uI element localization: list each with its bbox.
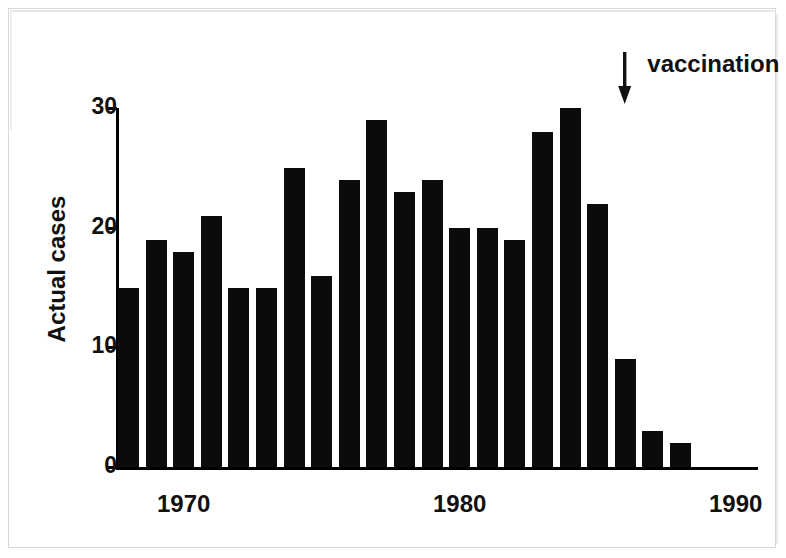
- bar: [670, 443, 691, 467]
- bar: [173, 252, 194, 467]
- bar: [587, 204, 608, 467]
- bar: [560, 108, 581, 467]
- bar: [477, 228, 498, 467]
- down-arrow-icon: [617, 52, 633, 104]
- bar: [422, 180, 443, 467]
- x-axis-tick-label: 1980: [415, 492, 505, 516]
- bar: [256, 288, 277, 468]
- bar: [311, 276, 332, 467]
- bar: [201, 216, 222, 467]
- bar: [642, 431, 663, 467]
- bar: [118, 288, 139, 468]
- bar: [228, 288, 249, 468]
- bar-series: [0, 0, 786, 558]
- bar: [532, 132, 553, 467]
- bar: [504, 240, 525, 467]
- bar: [366, 120, 387, 467]
- bar-chart: 0102030 Actual cases 197019801990 vaccin…: [0, 0, 786, 558]
- vaccination-annotation-label: vaccination: [647, 52, 779, 76]
- bar: [394, 192, 415, 467]
- bar: [339, 180, 360, 467]
- bar: [615, 359, 636, 467]
- bar: [284, 168, 305, 467]
- x-axis-tick-label: 1990: [691, 492, 781, 516]
- bar: [146, 240, 167, 467]
- x-axis-tick-label: 1970: [139, 492, 229, 516]
- chart-page: 0102030 Actual cases 197019801990 vaccin…: [0, 0, 786, 558]
- bar: [449, 228, 470, 467]
